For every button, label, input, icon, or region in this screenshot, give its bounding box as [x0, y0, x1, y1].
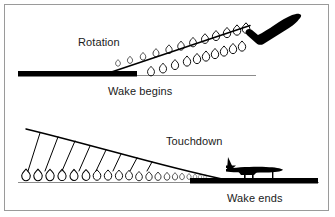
figure-diagram	[0, 0, 335, 217]
label-touchdown: Touchdown	[166, 135, 223, 147]
airplane-landing-silhouette	[226, 157, 283, 178]
takeoff-panel	[18, 14, 301, 77]
label-wake-ends: Wake ends	[227, 192, 283, 204]
label-rotation: Rotation	[78, 36, 120, 48]
airplane-climbing-silhouette	[246, 14, 302, 45]
vortex-row-lower-takeoff	[148, 41, 246, 76]
wake-turbulence-figure: Rotation Wake begins Touchdown Wake ends	[0, 0, 335, 217]
glide-slope-hatch-marks	[28, 133, 152, 171]
vortex-row-upper-takeoff	[116, 23, 250, 66]
label-wake-begins: Wake begins	[108, 85, 172, 97]
runway-bar-takeoff	[18, 71, 137, 77]
runway-bar-landing	[190, 178, 318, 184]
vortex-row-landing	[22, 169, 207, 181]
